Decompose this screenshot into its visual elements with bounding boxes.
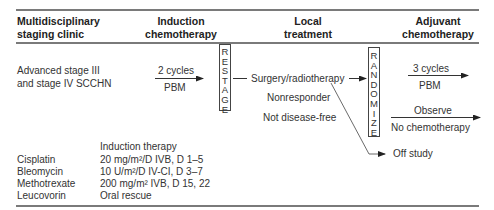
drug-dose: Oral rescue: [100, 189, 152, 202]
bottom-rule: [16, 205, 479, 207]
off-study-arrow: [331, 83, 385, 154]
drug-name: Leucovorin: [17, 189, 66, 202]
regimen-title: Induction therapy: [100, 140, 177, 153]
